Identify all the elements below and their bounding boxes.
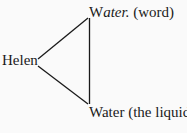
node-helen: Helen: [2, 53, 38, 68]
node-water-liquid: Water (the liquid): [89, 105, 187, 120]
word-label-prefix: W: [89, 4, 103, 20]
word-label-suffix: (word): [129, 4, 174, 20]
node-water-word: Water. (word): [89, 5, 174, 20]
word-label-italic: ater.: [103, 4, 129, 20]
triangle-diagram: Helen Water. (word) Water (the liquid): [0, 0, 187, 133]
edge-helen-word: [38, 18, 88, 59]
edge-helen-liquid: [38, 66, 88, 104]
